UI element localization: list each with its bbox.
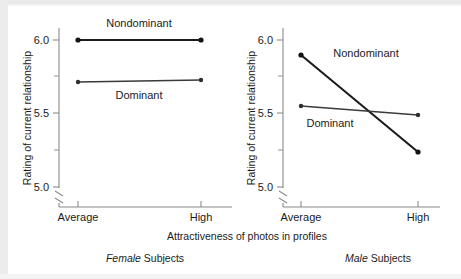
series-label-dominant-female: Dominant: [115, 89, 162, 101]
x-tick-label-high-female: High: [190, 211, 213, 223]
panel-female: 6.0 5.5 5.0 Average High Rating of curre…: [21, 17, 232, 264]
data-point-nondominant-average-male: [298, 52, 303, 57]
panel-caption-male: Male Subjects: [345, 252, 411, 264]
x-tick-label-high-male: High: [407, 211, 430, 223]
series-label-nondominant-male: Nondominant: [333, 47, 398, 59]
y-tick-label-6.0-male: 6.0: [258, 34, 273, 46]
data-point-dominant-high-female: [199, 78, 203, 82]
x-tick-label-average-female: Average: [58, 211, 99, 223]
figure-canvas: 6.0 5.5 5.0 Average High Rating of curre…: [0, 0, 461, 279]
panel-caption-female-emphasis: Female: [106, 252, 141, 264]
two-panel-line-chart: 6.0 5.5 5.0 Average High Rating of curre…: [0, 0, 461, 279]
y-axis-break-female: [55, 191, 63, 203]
x-tick-label-average-male: Average: [281, 211, 322, 223]
panel-caption-male-emphasis: Male: [345, 252, 368, 264]
series-line-nondominant-male: [301, 55, 418, 152]
y-tick-label-5.0-female: 5.0: [34, 181, 49, 193]
y-tick-label-5.0-male: 5.0: [258, 181, 273, 193]
data-point-nondominant-average-female: [75, 37, 80, 42]
panel-male: 6.0 5.5 5.0 Average High Rating of curre…: [245, 28, 440, 264]
data-point-dominant-average-male: [299, 104, 303, 108]
data-point-dominant-average-female: [76, 80, 80, 84]
series-line-dominant-female: [78, 80, 201, 82]
y-axis-break-male: [279, 191, 287, 203]
data-point-dominant-high-male: [416, 113, 420, 117]
y-axis-title-male: Rating of current relationship: [245, 51, 257, 185]
series-line-dominant-male: [301, 106, 418, 115]
shared-x-axis-title: Attractiveness of photos in profiles: [167, 230, 327, 242]
panel-caption-male-rest: Subjects: [368, 252, 411, 264]
data-point-nondominant-high-male: [415, 149, 420, 154]
panel-caption-female-rest: Subjects: [141, 252, 184, 264]
panel-caption-female: Female Subjects: [106, 252, 184, 264]
series-label-dominant-male: Dominant: [306, 117, 353, 129]
y-tick-label-5.5-male: 5.5: [258, 107, 273, 119]
y-tick-label-6.0-female: 6.0: [34, 34, 49, 46]
series-label-nondominant-female: Nondominant: [106, 17, 171, 29]
y-tick-label-5.5-female: 5.5: [34, 107, 49, 119]
data-point-nondominant-high-female: [198, 37, 203, 42]
y-axis-title-female: Rating of current relationship: [21, 51, 33, 185]
